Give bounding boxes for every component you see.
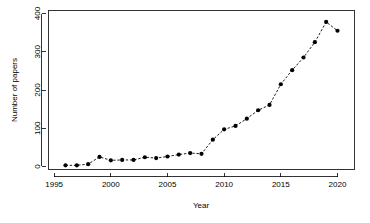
y-axis-title: Number of papers (10, 58, 19, 122)
y-tick-label: 100 (33, 121, 42, 135)
data-point (279, 82, 283, 86)
x-tick-label: 2020 (329, 180, 347, 189)
y-tick-label: 300 (33, 45, 42, 59)
chart-figure: 0100200300400 199520002005201020152020 Y… (0, 0, 370, 223)
data-point (188, 151, 192, 155)
y-axis: 0100200300400 (33, 6, 45, 168)
data-point (290, 68, 294, 72)
line-chart-canvas: 0100200300400 199520002005201020152020 Y… (0, 0, 370, 223)
data-point (222, 127, 226, 131)
data-point (335, 29, 339, 33)
data-point (233, 124, 237, 128)
data-point (256, 108, 260, 112)
data-point (97, 155, 101, 159)
data-point (154, 156, 158, 160)
data-point (324, 20, 328, 24)
data-point (75, 163, 79, 167)
x-tick-label: 2015 (272, 180, 290, 189)
data-point (63, 163, 67, 167)
plot-frame (49, 11, 355, 170)
data-point (177, 152, 181, 156)
x-tick-label: 1995 (45, 180, 63, 189)
x-axis-title: Year (193, 201, 210, 210)
data-point (86, 162, 90, 166)
x-tick-label: 2010 (215, 180, 233, 189)
data-point (313, 40, 317, 44)
x-axis: 199520002005201020152020 (45, 173, 347, 190)
y-tick-label: 200 (33, 83, 42, 97)
series-line (66, 22, 338, 165)
data-point (199, 152, 203, 156)
data-point (245, 117, 249, 121)
data-point (165, 154, 169, 158)
data-point (267, 103, 271, 107)
data-point (211, 138, 215, 142)
data-point (109, 158, 113, 162)
data-series (63, 20, 339, 168)
data-point (143, 155, 147, 159)
x-tick-label: 2000 (102, 180, 120, 189)
data-point (131, 158, 135, 162)
data-point (120, 158, 124, 162)
x-tick-label: 2005 (159, 180, 177, 189)
data-point (301, 55, 305, 59)
y-tick-label: 0 (33, 164, 42, 169)
y-tick-label: 400 (33, 6, 42, 20)
